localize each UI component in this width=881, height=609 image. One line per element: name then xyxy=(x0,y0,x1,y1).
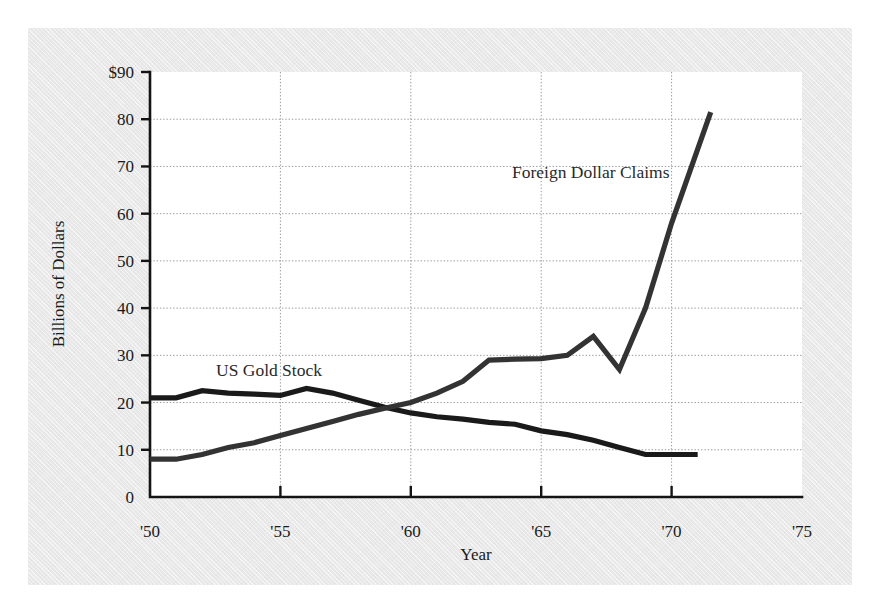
y-axis-tick-label: 0 xyxy=(126,488,135,507)
y-axis-tick-label: 10 xyxy=(117,441,134,460)
y-axis-ticks xyxy=(141,72,150,450)
x-axis-tick-label: '70 xyxy=(662,522,682,541)
x-axis-tick-label: '60 xyxy=(401,522,421,541)
figure-root: $9080706050403020100 '50'55'60'65'70'75 … xyxy=(0,0,881,609)
y-axis-tick-label: 50 xyxy=(117,252,134,271)
y-axis-tick-label: 80 xyxy=(117,110,134,129)
y-axis-tick-label: $90 xyxy=(109,63,135,82)
x-axis-title: Year xyxy=(460,545,492,564)
x-axis-tick-labels: '50'55'60'65'70'75 xyxy=(140,522,812,541)
y-axis-tick-label: 70 xyxy=(117,157,134,176)
line-chart: $9080706050403020100 '50'55'60'65'70'75 … xyxy=(28,28,852,585)
x-axis-tick-label: '55 xyxy=(270,522,290,541)
x-axis-tick-label: '65 xyxy=(531,522,551,541)
y-axis-tick-label: 20 xyxy=(117,394,134,413)
y-axis-tick-label: 30 xyxy=(117,346,134,365)
chart-panel-background: $9080706050403020100 '50'55'60'65'70'75 … xyxy=(28,28,852,585)
series-label-foreign-dollar-claims: Foreign Dollar Claims xyxy=(512,162,670,182)
y-axis-tick-labels: $9080706050403020100 xyxy=(109,63,135,507)
x-axis-tick-label: '75 xyxy=(792,522,812,541)
y-axis-title: Billions of Dollars xyxy=(49,221,68,348)
series-label-us-gold-stock: US Gold Stock xyxy=(216,360,322,380)
y-axis-tick-label: 60 xyxy=(117,205,134,224)
y-axis-tick-label: 40 xyxy=(117,299,134,318)
x-axis-tick-label: '50 xyxy=(140,522,160,541)
